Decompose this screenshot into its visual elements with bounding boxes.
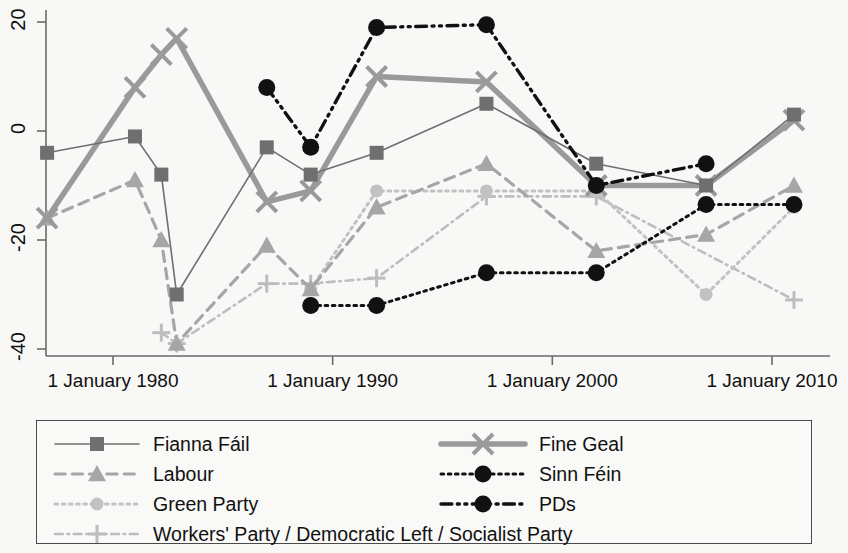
legend-swatch <box>51 431 143 457</box>
chart-page: 200-20-40 1 January 19801 January 19901 … <box>0 0 848 553</box>
x-tick-label: 1 January 1990 <box>253 370 413 392</box>
legend-label: Fianna Fáil <box>153 433 249 456</box>
legend-swatch <box>437 491 529 517</box>
legend-item: Fine Geal <box>437 431 624 457</box>
y-tick-label: 20 <box>7 2 30 38</box>
legend-label: Green Party <box>153 493 258 516</box>
legend-swatch <box>437 431 529 457</box>
x-tick-label: 1 January 2000 <box>472 370 632 392</box>
legend-swatch <box>51 461 143 487</box>
legend-item: Sinn Féin <box>437 461 621 487</box>
legend-item: PDs <box>437 491 576 517</box>
x-tick-label: 1 January 1980 <box>33 370 193 392</box>
line-chart-svg <box>0 0 848 410</box>
series-green-party <box>304 184 800 301</box>
x-tick-label: 1 January 2010 <box>692 370 848 392</box>
legend-label: Labour <box>153 463 214 486</box>
legend-swatch <box>437 461 529 487</box>
legend-label: Workers' Party / Democratic Left / Socia… <box>153 523 572 546</box>
legend-swatch <box>51 521 143 547</box>
legend-item: Fianna Fáil <box>51 431 249 457</box>
legend-item: Workers' Party / Democratic Left / Socia… <box>51 521 572 547</box>
y-tick-label: -20 <box>7 220 30 256</box>
legend-item: Green Party <box>51 491 258 517</box>
legend-label: Fine Geal <box>539 433 624 456</box>
y-tick-label: 0 <box>7 111 30 147</box>
legend-swatch <box>51 491 143 517</box>
legend-entries: Fianna FáilFine GealLabourSinn FéinGreen… <box>37 421 811 543</box>
series-fine-gael <box>37 28 804 228</box>
legend-label: Sinn Féin <box>539 463 621 486</box>
legend-label: PDs <box>539 493 576 516</box>
chart-legend: Fianna FáilFine GealLabourSinn FéinGreen… <box>36 420 812 544</box>
legend-item: Labour <box>51 461 214 487</box>
plot-area: 200-20-40 1 January 19801 January 19901 … <box>0 0 848 410</box>
y-tick-label: -40 <box>7 329 30 365</box>
series-fianna-f-il <box>40 97 801 302</box>
